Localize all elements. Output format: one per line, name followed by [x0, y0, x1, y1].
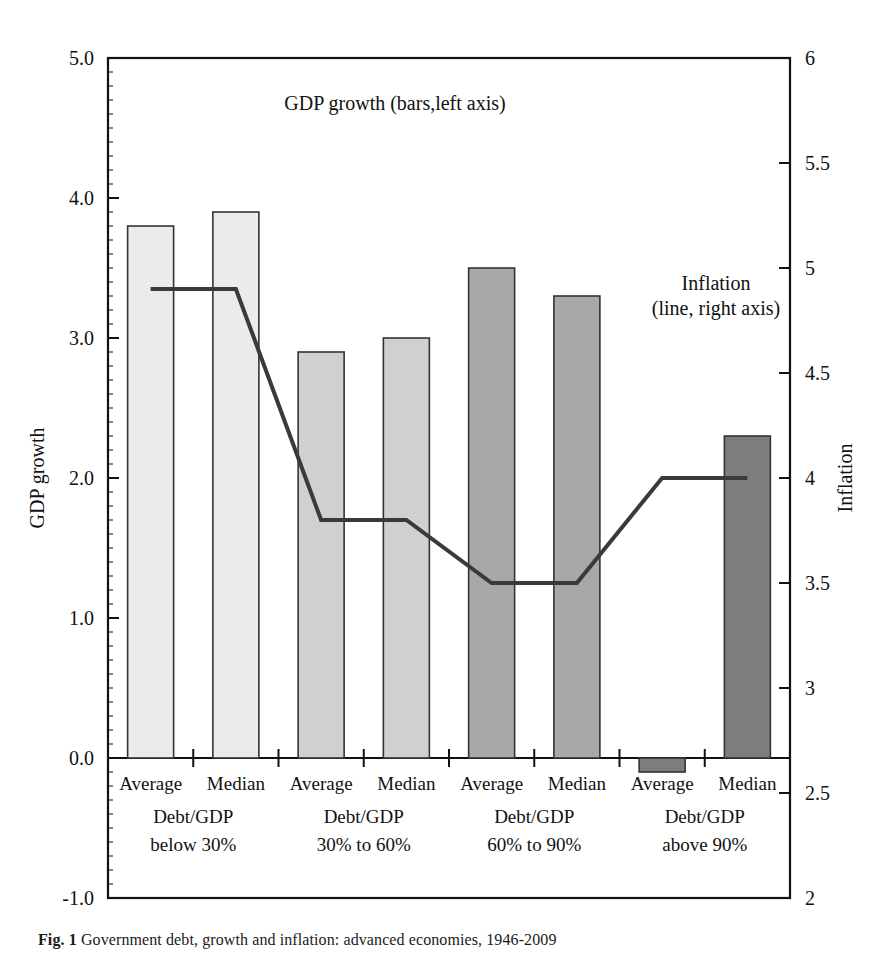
figure-container: 5.04.03.02.01.00.0-1.065.554.543.532.52G… — [0, 0, 876, 957]
figure-caption-text: Government debt, growth and inflation: a… — [81, 931, 557, 948]
x-axis-group-label-line1: Debt/GDP — [494, 806, 574, 827]
figure-caption: Fig. 1 Government debt, growth and infla… — [38, 930, 858, 950]
x-axis-category-label: Median — [548, 773, 607, 794]
y-axis-tick-label: 4.0 — [69, 187, 94, 209]
y-axis-tick-label: 5.0 — [69, 47, 94, 69]
bar — [554, 296, 600, 758]
x-axis-category-label: Median — [377, 773, 436, 794]
x-axis-category-label: Average — [460, 773, 523, 794]
y2-axis-tick-label: 3 — [805, 677, 815, 699]
x-axis-category-label: Median — [718, 773, 777, 794]
x-axis-group-label-line2: above 90% — [662, 834, 747, 855]
annotation-bars-note: GDP growth (bars,left axis) — [284, 92, 505, 115]
y2-axis-title: Inflation — [834, 444, 856, 513]
y2-axis-tick-label: 2.5 — [805, 782, 830, 804]
chart-area: 5.04.03.02.01.00.0-1.065.554.543.532.52G… — [0, 0, 876, 957]
y2-axis-tick-label: 6 — [805, 47, 815, 69]
x-axis-group-label-line1: Debt/GDP — [324, 806, 404, 827]
y2-axis-tick-label: 2 — [805, 887, 815, 909]
x-axis-category-label: Average — [119, 773, 182, 794]
y-axis-tick-label: 0.0 — [69, 747, 94, 769]
x-axis-group-label-line1: Debt/GDP — [665, 806, 745, 827]
x-axis-group-label-line2: 60% to 90% — [487, 834, 581, 855]
y-axis-tick-label: -1.0 — [62, 887, 94, 909]
x-axis-category-label: Median — [207, 773, 266, 794]
bar — [383, 338, 429, 758]
bar — [469, 268, 515, 758]
bar — [298, 352, 344, 758]
x-axis-group-label-line2: 30% to 60% — [317, 834, 411, 855]
y2-axis-tick-label: 3.5 — [805, 572, 830, 594]
bar — [639, 758, 685, 772]
bar — [724, 436, 770, 758]
bar — [128, 226, 174, 758]
annotation-line-note-2: (line, right axis) — [652, 297, 780, 320]
y-axis-tick-label: 2.0 — [69, 467, 94, 489]
annotation-line-note-1: Inflation — [682, 272, 751, 294]
y2-axis-tick-label: 5.5 — [805, 152, 830, 174]
gdp-inflation-chart: 5.04.03.02.01.00.0-1.065.554.543.532.52G… — [0, 0, 876, 915]
x-axis-category-label: Average — [631, 773, 694, 794]
y2-axis-tick-label: 5 — [805, 257, 815, 279]
x-axis-group-label-line2: below 30% — [150, 834, 236, 855]
figure-caption-label: Fig. 1 — [38, 931, 77, 948]
x-axis-group-label-line1: Debt/GDP — [153, 806, 233, 827]
y-axis-tick-label: 1.0 — [69, 607, 94, 629]
y2-axis-tick-label: 4 — [805, 467, 815, 489]
y2-axis-tick-label: 4.5 — [805, 362, 830, 384]
y-axis-tick-label: 3.0 — [69, 327, 94, 349]
y-axis-title: GDP growth — [26, 428, 49, 529]
x-axis-category-label: Average — [290, 773, 353, 794]
